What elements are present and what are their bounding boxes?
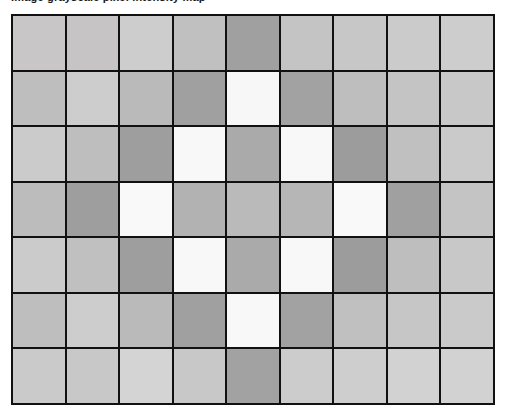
heatmap-cell bbox=[281, 183, 333, 237]
heatmap-cell bbox=[227, 127, 279, 181]
heatmap-cell bbox=[281, 16, 333, 70]
heatmap-cell bbox=[281, 349, 333, 403]
heatmap-page: Image grayscale pixel intensity map bbox=[0, 0, 506, 416]
heatmap-cell bbox=[388, 72, 440, 126]
heatmap-grid bbox=[11, 14, 495, 405]
heatmap-cell bbox=[227, 238, 279, 292]
heatmap-cell bbox=[13, 238, 65, 292]
heatmap-cell bbox=[67, 294, 119, 348]
chart-title: Image grayscale pixel intensity map bbox=[11, 0, 491, 5]
heatmap-cell bbox=[441, 16, 493, 70]
heatmap-cell bbox=[67, 72, 119, 126]
heatmap-cell bbox=[281, 72, 333, 126]
heatmap-cell bbox=[120, 16, 172, 70]
heatmap-cell bbox=[334, 72, 386, 126]
heatmap-cell bbox=[334, 294, 386, 348]
heatmap-cell bbox=[174, 349, 226, 403]
heatmap-cell bbox=[227, 294, 279, 348]
heatmap-cell bbox=[67, 16, 119, 70]
heatmap-cell bbox=[174, 238, 226, 292]
heatmap-cell bbox=[334, 349, 386, 403]
heatmap-cell bbox=[120, 127, 172, 181]
heatmap-cell bbox=[120, 183, 172, 237]
heatmap-cell bbox=[227, 16, 279, 70]
heatmap-cell bbox=[334, 16, 386, 70]
heatmap-cell bbox=[334, 238, 386, 292]
heatmap-cell bbox=[67, 127, 119, 181]
heatmap-cell bbox=[227, 349, 279, 403]
heatmap-cell bbox=[174, 183, 226, 237]
heatmap-cell bbox=[174, 72, 226, 126]
heatmap-cell bbox=[334, 127, 386, 181]
heatmap-cell bbox=[120, 349, 172, 403]
heatmap-cell bbox=[281, 127, 333, 181]
heatmap-cell bbox=[441, 183, 493, 237]
heatmap-cell bbox=[120, 72, 172, 126]
heatmap-cell bbox=[13, 72, 65, 126]
heatmap-cell bbox=[441, 127, 493, 181]
heatmap-cell bbox=[174, 294, 226, 348]
heatmap-cell bbox=[174, 16, 226, 70]
heatmap-cell bbox=[441, 349, 493, 403]
heatmap-cell bbox=[388, 183, 440, 237]
heatmap-cell bbox=[388, 294, 440, 348]
heatmap-cell bbox=[281, 294, 333, 348]
heatmap-cell bbox=[174, 127, 226, 181]
heatmap-cell bbox=[388, 16, 440, 70]
heatmap-cell bbox=[13, 183, 65, 237]
heatmap-cell bbox=[13, 294, 65, 348]
heatmap-cell bbox=[441, 238, 493, 292]
heatmap-cell bbox=[13, 16, 65, 70]
heatmap-cell bbox=[227, 72, 279, 126]
heatmap-cell bbox=[67, 183, 119, 237]
heatmap-cell bbox=[67, 349, 119, 403]
heatmap-cell bbox=[13, 127, 65, 181]
heatmap-cell bbox=[388, 238, 440, 292]
heatmap-cell bbox=[120, 294, 172, 348]
heatmap-cell bbox=[281, 238, 333, 292]
heatmap-cell bbox=[388, 127, 440, 181]
heatmap-cell bbox=[441, 294, 493, 348]
heatmap-cell bbox=[67, 238, 119, 292]
heatmap-cell bbox=[227, 183, 279, 237]
heatmap-cell bbox=[120, 238, 172, 292]
heatmap-cell bbox=[388, 349, 440, 403]
heatmap-cell bbox=[441, 72, 493, 126]
heatmap-cell bbox=[334, 183, 386, 237]
heatmap-cell bbox=[13, 349, 65, 403]
